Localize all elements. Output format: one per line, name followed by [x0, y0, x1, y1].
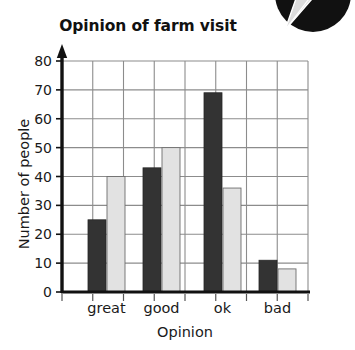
y-tick-label: 70: [34, 82, 52, 98]
x-tick-label-great: great: [87, 300, 126, 316]
bar-bad-dark: [259, 260, 277, 292]
y-tick-label: 60: [34, 111, 52, 127]
bar-bad-light: [278, 269, 296, 292]
bar-ok-dark: [204, 93, 222, 292]
bar-great-light: [107, 177, 125, 293]
bar-group: [88, 93, 296, 292]
bar-ok-light: [223, 188, 241, 292]
bar-good-light: [162, 148, 180, 292]
x-axis-ticks: greatgoodokbad: [62, 294, 308, 316]
y-tick-label: 30: [34, 197, 52, 213]
y-axis-ticks: 01020304050607080: [34, 53, 62, 300]
y-tick-label: 50: [34, 140, 52, 156]
y-tick-label: 10: [34, 255, 52, 271]
y-tick-label: 40: [34, 169, 52, 185]
x-tick-label-ok: ok: [214, 300, 232, 316]
y-tick-label: 80: [34, 53, 52, 69]
y-tick-label: 20: [34, 226, 52, 242]
bar-great-dark: [88, 220, 106, 292]
x-tick-label-good: good: [143, 300, 179, 316]
x-tick-label-bad: bad: [264, 300, 291, 316]
y-tick-label: 0: [43, 284, 52, 300]
bar-good-dark: [143, 168, 161, 292]
